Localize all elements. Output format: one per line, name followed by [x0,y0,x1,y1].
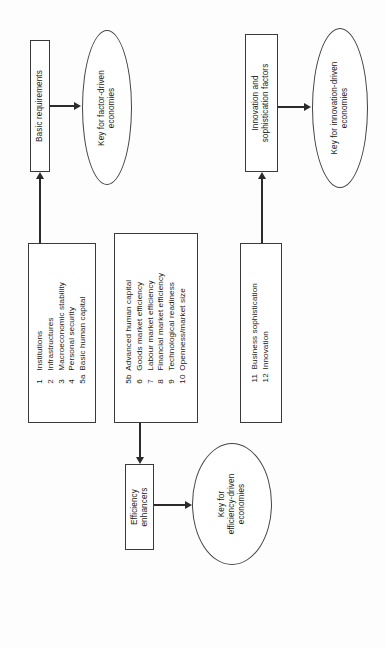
list-item: 11 Business sophistication [250,283,261,382]
pillar-label: Infrastructures [46,318,57,371]
pillar-label: Macroeconomic stability [57,282,68,371]
connector-basic-pillars-to-basic-requirements [39,178,41,244]
arrowhead-key-innovation-driven [304,103,311,111]
pillar-number: 5b [124,370,135,383]
key-innovation-driven-line2: economies [340,88,349,129]
list-item: 7 Labour market efficiency [145,273,156,384]
connector-efficiency-pillars-to-efficiency-enhancers [139,423,141,459]
list-item: 1 Institutions [35,282,46,384]
list-item: 9 Technological readiness [167,273,178,384]
efficiency-enhancers-pillar-list: 5b Advanced human capital 6 Goods market… [124,273,189,384]
list-item: 8 Financial market efficiency [156,273,167,384]
key-factor-driven-line2: economies [107,87,116,128]
pillar-label: Advanced human capital [124,280,135,371]
pillar-number: 12 [261,370,272,383]
arrowhead-innovation-sophistication [258,172,266,179]
pillar-number: 10 [178,370,189,383]
key-factor-driven-line1: Key for factor-driven [97,70,106,146]
pillar-label: Institutions [35,331,46,371]
node-efficiency-enhancers-pillars[interactable]: 5b Advanced human capital 6 Goods market… [114,233,198,423]
node-efficiency-enhancers-label: Efficiency enhancers [130,487,150,526]
node-innovation-sophistication[interactable]: Innovation and sophistication factors [245,34,278,172]
connector-basic-requirements-to-key-factor-driven [50,105,75,107]
list-item: 6 Goods market efficiency [135,273,146,384]
key-efficiency-driven-line1: Key for [217,491,226,518]
efficiency-enhancers-line2: enhancers [140,487,149,526]
list-item: 12 Innovation [261,283,272,382]
pillar-label: Innovation [261,331,272,369]
pillar-number: 4 [67,371,78,384]
node-key-innovation-driven[interactable]: Key for innovation-driven economies [312,28,368,188]
list-item: 4 Personal security [67,282,78,384]
node-basic-requirements[interactable]: Basic requirements [30,40,50,172]
pillar-number: 8 [156,370,167,383]
innovation-sophistication-pillar-list: 11 Business sophistication 12 Innovation [250,283,272,382]
key-innovation-driven-line1: Key for innovation-driven [330,61,339,154]
node-key-efficiency-driven[interactable]: Key for efficiency-driven economies [192,443,272,565]
node-key-factor-driven-label: Key for factor-driven economies [97,70,117,146]
pillar-number: 11 [250,370,261,383]
pillar-number: 7 [145,370,156,383]
innovation-sophistication-line1: Innovation and [252,75,261,130]
list-item: 5a Basic human capital [78,282,89,384]
diagram-canvas: Basic requirements Key for factor-driven… [0,0,386,648]
node-key-innovation-driven-label: Key for innovation-driven economies [330,61,350,154]
list-item: 2 Infrastructures [46,282,57,384]
basic-requirements-pillar-list: 1 Institutions 2 Infrastructures 3 Macro… [35,282,89,384]
pillar-label: Business sophistication [250,283,261,369]
arrowhead-basic-requirements [36,172,44,179]
efficiency-enhancers-line1: Efficiency [130,489,139,525]
node-basic-requirements-label: Basic requirements [35,70,45,142]
connector-innovation-pillars-to-innovation-factors [261,178,263,244]
list-item: 3 Macroeconomic stability [57,282,68,384]
key-efficiency-driven-line3: economies [237,484,246,525]
arrowhead-efficiency-enhancers [136,457,144,464]
pillar-label: Basic human capital [78,296,89,370]
node-key-factor-driven[interactable]: Key for factor-driven economies [82,30,132,185]
pillar-label: Goods market efficiency [135,281,146,370]
list-item: 10 Openness/market size [178,273,189,384]
pillar-label: Financial market efficiency [156,273,167,371]
node-innovation-sophistication-pillars[interactable]: 11 Business sophistication 12 Innovation [240,243,282,423]
pillar-label: Openness/market size [178,288,189,371]
pillar-label: Technological readiness [167,282,178,371]
arrowhead-key-efficiency-driven [185,501,192,509]
node-key-efficiency-driven-label: Key for efficiency-driven economies [217,474,247,535]
node-innovation-sophistication-label: Innovation and sophistication factors [252,64,272,143]
list-item: 5b Advanced human capital [124,273,135,384]
pillar-label: Labour market efficiency [145,280,156,370]
node-basic-requirements-pillars[interactable]: 1 Institutions 2 Infrastructures 3 Macro… [28,243,96,423]
pillar-number: 6 [135,370,146,383]
pillar-number: 2 [46,371,57,384]
innovation-sophistication-line2: sophistication factors [262,64,271,143]
arrowhead-key-factor-driven [74,102,81,110]
pillar-number: 9 [167,370,178,383]
key-efficiency-driven-line2: efficiency-driven [227,474,236,535]
connector-efficiency-enhancers-to-key-efficiency-driven [154,504,186,506]
pillar-number: 3 [57,371,68,384]
pillar-label: Personal security [67,307,78,371]
node-efficiency-enhancers[interactable]: Efficiency enhancers [125,464,154,550]
pillar-number: 5a [78,371,89,384]
connector-innovation-factors-to-key-innovation-driven [278,106,305,108]
pillar-number: 1 [35,371,46,384]
